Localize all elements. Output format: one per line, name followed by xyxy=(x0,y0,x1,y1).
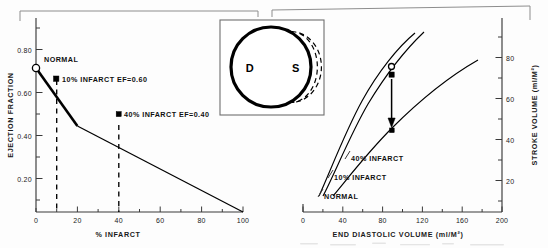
right-y-axis-label: STROKE VOLUME (ml/M²) xyxy=(530,65,539,166)
right-panel: 20 40 60 80 0 40 80 120 160 xyxy=(301,18,539,239)
curve-label-40-percent: 40% INFARCT xyxy=(351,154,404,163)
left-y-tick-3: 0.80 xyxy=(17,47,32,54)
left-x-tick-1: 20 xyxy=(73,217,81,224)
left-x-tick-3: 60 xyxy=(156,217,164,224)
scan-edge-artifact xyxy=(300,243,504,246)
left-x-tick-0: 0 xyxy=(34,217,38,224)
right-y-tick-0: 20 xyxy=(506,178,514,185)
annotation-normal: NORMAL xyxy=(44,55,78,64)
marker-right-normal-open-circle xyxy=(389,64,395,70)
right-x-tick-2: 80 xyxy=(378,217,386,224)
right-x-axis-label: END DIASTOLIC VOLUME (ml/M²) xyxy=(333,230,464,239)
right-x-tick-3: 120 xyxy=(416,217,429,224)
left-x-tick-4: 80 xyxy=(197,217,205,224)
left-y-ticks xyxy=(36,28,43,200)
inset-label-diastole: D xyxy=(246,62,254,74)
annotation-40-percent: 40% INFARCT EF=0.40 xyxy=(124,110,209,119)
left-y-axis-label: EJECTION FRACTION xyxy=(6,72,15,157)
left-panel: 0.20 0.40 0.60 0.80 0 20 40 60 xyxy=(6,18,249,239)
inset-frame xyxy=(220,20,324,115)
left-data-line-segment-2 xyxy=(77,126,243,212)
right-y-tick-2: 60 xyxy=(506,96,514,103)
left-x-ticks xyxy=(36,207,243,213)
right-y-tick-3: 80 xyxy=(506,55,514,62)
figure-svg: 0.20 0.40 0.60 0.80 0 20 40 60 xyxy=(0,0,548,248)
right-x-tick-5: 200 xyxy=(496,217,509,224)
left-x-axis-label: % INFARCT xyxy=(96,230,141,239)
curve-label-10-percent: 10% INFARCT xyxy=(334,173,387,182)
left-y-tick-2: 0.60 xyxy=(17,90,32,97)
inset-label-systole: S xyxy=(292,62,300,74)
leader-40 xyxy=(345,151,350,159)
annotation-10-percent: 10% INFARCT EF=0.60 xyxy=(62,75,147,84)
right-x-ticks xyxy=(303,207,502,213)
figure-container: 0.20 0.40 0.60 0.80 0 20 40 60 xyxy=(0,0,548,248)
curve-label-normal: NORMAL xyxy=(324,192,358,201)
right-x-tick-0: 0 xyxy=(301,217,305,224)
right-y-ticks xyxy=(496,37,503,201)
heart-inset: D S xyxy=(220,20,324,115)
right-y-tick-1: 40 xyxy=(506,137,514,144)
left-x-tick-2: 40 xyxy=(115,217,123,224)
leader-normal xyxy=(318,189,323,197)
marker-10-percent-infarct xyxy=(54,76,59,81)
curve-10-percent-infarct xyxy=(323,32,424,196)
right-x-tick-4: 160 xyxy=(456,217,469,224)
marker-normal-open-circle xyxy=(32,64,39,71)
marker-right-40-percent-infarct xyxy=(390,128,395,133)
left-y-tick-0: 0.20 xyxy=(17,176,32,183)
marker-40-percent-infarct xyxy=(116,112,121,117)
marker-right-10-percent-infarct xyxy=(389,72,394,77)
top-rule-right xyxy=(272,6,530,20)
left-y-tick-1: 0.40 xyxy=(17,133,32,140)
right-x-tick-1: 40 xyxy=(339,217,347,224)
left-x-tick-5: 100 xyxy=(237,217,250,224)
